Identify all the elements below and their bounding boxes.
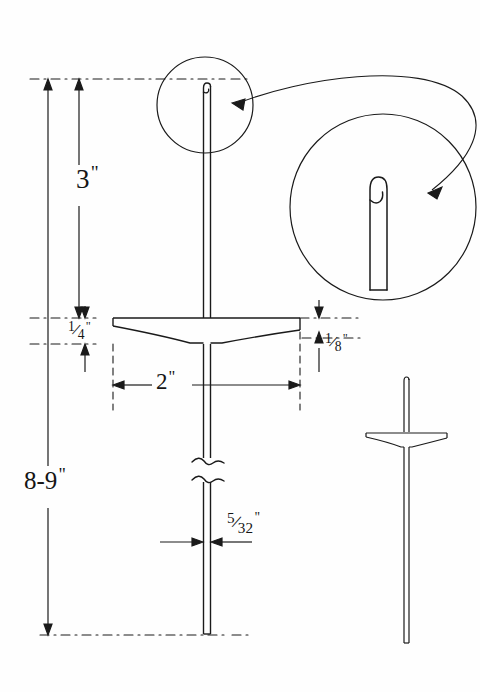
crossbar-underside-left: [113, 326, 204, 343]
hook-barb: [204, 89, 209, 93]
dimension-2in: [113, 381, 300, 389]
label-rod-diameter: 5/32 ": [227, 512, 259, 531]
dimension-rod-diameter: [160, 538, 252, 546]
crossbar-width-extension-lines: [113, 332, 300, 410]
detail-circle-enlarged: [290, 114, 476, 300]
enlarged-hook-geometry: [370, 177, 387, 290]
detail-leader-arrow: [232, 76, 476, 199]
technical-drawing-canvas: [0, 0, 480, 692]
rod-shaft: [204, 83, 211, 634]
label-quarter-in: 1/4 ": [68, 321, 90, 338]
crossbar-underside-right: [211, 330, 301, 343]
dimension-3in: [75, 79, 83, 318]
drawing-sheet: 3" 1/4 " 1/8 " 2" 5/32 " 8-9": [0, 0, 480, 692]
label-3in: 3": [76, 166, 97, 193]
label-overall-length: 8-9": [24, 468, 64, 493]
break-symbol: [192, 458, 224, 482]
hook-tip: [204, 83, 211, 92]
label-2in: 2": [156, 370, 174, 393]
crossbar: [113, 318, 300, 343]
dimension-eighth-in: [315, 300, 323, 372]
dimension-overall: [44, 79, 52, 635]
reduced-side-view: [366, 377, 447, 643]
label-eighth-in: 1/8 ": [325, 333, 347, 350]
